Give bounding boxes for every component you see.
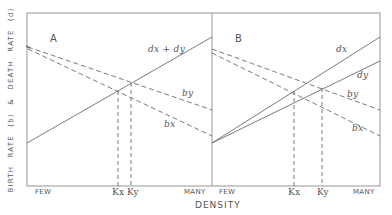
x-tick-many-b: MANY	[353, 188, 375, 196]
label-dy: dy	[357, 70, 368, 80]
label-ky-a: Ky	[127, 187, 139, 197]
x-tick-many-a: MANY	[184, 188, 206, 196]
label-by-a: by	[182, 88, 193, 98]
x-tick-few-a: FEW	[35, 188, 51, 196]
diagram-canvas	[0, 0, 392, 215]
label-by-b: by	[347, 89, 358, 99]
label-ky-b: Ky	[317, 187, 329, 197]
plot-frame	[27, 13, 380, 186]
panel-a-letter: A	[50, 33, 57, 44]
y-axis-label: BIRTH RATE (b) & DEATH RATE (d)	[7, 7, 15, 192]
x-tick-few-b: FEW	[219, 188, 235, 196]
line-by-a	[28, 47, 212, 110]
label-dx-plus-dy: dx + dy	[148, 44, 185, 54]
panel-b-letter: B	[235, 33, 242, 44]
label-kx-b: Kx	[288, 187, 300, 197]
label-bx-a: bx	[164, 119, 175, 129]
panel-a-lines	[26, 37, 212, 186]
outer-frame	[27, 13, 380, 186]
label-dx: dx	[336, 44, 347, 54]
panel-b-lines	[212, 37, 380, 186]
line-by-b	[212, 49, 380, 110]
x-axis-label: DENSITY	[195, 200, 241, 210]
label-kx-a: Kx	[112, 187, 124, 197]
label-bx-b: bx	[352, 123, 363, 133]
